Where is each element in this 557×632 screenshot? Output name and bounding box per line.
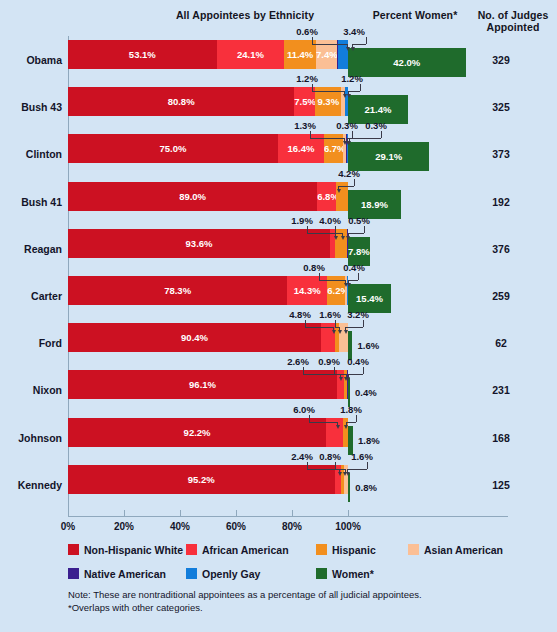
legend-label: Non-Hispanic White	[84, 544, 183, 556]
callout-label: 0.6%	[293, 26, 321, 37]
bar-segment-white: 53.1%	[68, 40, 217, 69]
callout-label: 3.2%	[344, 309, 372, 320]
chart-row: Clinton37375.0%16.4%6.7%29.1%1.3%0.3%0.3…	[0, 134, 557, 181]
callout-leader-stem	[358, 273, 359, 280]
judges-count: 373	[470, 148, 532, 160]
row-label-ford: Ford	[0, 337, 62, 349]
legend-row: Non-Hispanic WhiteAfrican AmericanHispan…	[68, 540, 538, 556]
row-label-kennedy: Kennedy	[0, 479, 62, 491]
legend-label: Hispanic	[332, 544, 376, 556]
segment-value-label: 75.0%	[160, 143, 187, 154]
callout-leader-stem	[363, 320, 364, 327]
callout-leader-line	[348, 91, 360, 92]
bar-segment-white: 90.4%	[68, 323, 321, 352]
row-label-reagan: Reagan	[0, 243, 62, 255]
callout-leader-stem	[305, 320, 306, 327]
legend-swatch-icon	[68, 544, 79, 555]
callout-leader-line	[319, 280, 345, 281]
callout-leader-line	[310, 138, 344, 139]
judges-count: 259	[470, 290, 532, 302]
chart-canvas: All Appointees by Ethnicity Percent Wome…	[0, 0, 557, 632]
segment-value-label: 7.5%	[294, 96, 315, 107]
header-no-of-judges-appointed: No. of Judges Appointed	[470, 10, 556, 33]
callout-arrow-icon	[339, 377, 343, 383]
callout-label: 1.6%	[348, 451, 376, 462]
chart-row: Carter25978.3%14.3%6.2%15.4%0.8%0.4%	[0, 276, 557, 323]
x-axis-line	[68, 516, 508, 517]
bar-segment-white: 89.0%	[68, 182, 317, 211]
note-line-2: *Overlaps with other categories.	[68, 601, 518, 614]
bar-segment-white: 95.2%	[68, 465, 335, 494]
callout-leader-line	[348, 374, 364, 375]
callout-leader-stem	[364, 226, 365, 233]
callout-label: 4.8%	[286, 309, 314, 320]
chart-row: Reagan37693.6%7.8%1.9%4.0%0.5%	[0, 229, 557, 276]
legend-swatch-icon	[316, 568, 327, 579]
bar-segment-white: 93.6%	[68, 229, 330, 258]
judges-count: 376	[470, 243, 532, 255]
women-value-label: 0.8%	[355, 473, 377, 502]
callout-leader-line	[335, 233, 342, 234]
callout-label: 0.5%	[345, 215, 373, 226]
segment-value-label: 9.3%	[317, 96, 339, 107]
segment-value-label: 95.2%	[188, 474, 215, 485]
legend-item-asian-american[interactable]: Asian American	[408, 540, 503, 556]
callout-leader-line	[312, 91, 344, 92]
chart-row: Ford6290.4%1.6%4.8%1.6%3.2%	[0, 323, 557, 370]
callout-label: 2.4%	[288, 451, 316, 462]
legend-label: Openly Gay	[202, 568, 260, 580]
legend-item-african-american[interactable]: African American	[186, 540, 289, 556]
legend-item-women[interactable]: Women*	[316, 564, 374, 580]
judges-count: 192	[470, 196, 532, 208]
segment-value-label: 89.0%	[179, 191, 206, 202]
segment-value-label: 11.4%	[287, 49, 313, 60]
legend-item-openly-gay[interactable]: Openly Gay	[186, 564, 260, 580]
x-tick-label: 0%	[48, 521, 88, 532]
callout-leader-stem	[319, 273, 320, 280]
callout-label: 0.3%	[362, 120, 390, 131]
segment-value-label: 6.2%	[327, 285, 344, 296]
legend-item-hispanic[interactable]: Hispanic	[316, 540, 376, 556]
bar-segment-white: 80.8%	[68, 87, 294, 116]
chart-row: Kennedy12595.2%0.8%2.4%0.8%1.6%	[0, 465, 557, 512]
callout-arrow-icon	[346, 472, 350, 478]
note-line-1: Note: These are nontraditional appointee…	[68, 588, 518, 601]
callout-label: 1.3%	[291, 120, 319, 131]
header-all-appointees-by-ethnicity: All Appointees by Ethnicity	[120, 10, 370, 22]
callout-leader-line	[309, 422, 337, 423]
legend-label: Asian American	[424, 544, 503, 556]
segment-value-label: 6.8%	[317, 191, 336, 202]
callout-arrow-icon	[334, 236, 338, 242]
judges-count: 231	[470, 384, 532, 396]
segment-value-label: 92.2%	[184, 427, 211, 438]
callout-label: 4.2%	[335, 168, 363, 179]
row-label-obama: Obama	[0, 54, 62, 66]
callout-arrow-icon	[344, 425, 348, 431]
x-tick-label: 80%	[272, 521, 312, 532]
legend-swatch-icon	[408, 544, 419, 555]
callout-leader-stem	[312, 37, 313, 44]
legend-label: Women*	[332, 568, 374, 580]
callout-leader-line	[334, 374, 346, 375]
row-label-nixon: Nixon	[0, 384, 62, 396]
callout-leader-stem	[303, 367, 304, 374]
bar-segment-white: 96.1%	[68, 370, 337, 399]
legend-swatch-icon	[316, 544, 327, 555]
bar-segment-white: 92.2%	[68, 418, 326, 447]
callout-arrow-icon	[346, 377, 350, 383]
segment-value-label: 90.4%	[181, 332, 208, 343]
x-tick-label: 40%	[160, 521, 200, 532]
row-label-johnson: Johnson	[0, 432, 62, 444]
legend-item-native-american[interactable]: Native American	[68, 564, 166, 580]
bar-segment-african: 6.8%	[317, 182, 336, 211]
judges-count: 329	[470, 54, 532, 66]
callout-leader-line	[312, 44, 347, 45]
callout-leader-line	[335, 469, 345, 470]
callout-arrow-icon	[347, 283, 351, 289]
legend-swatch-icon	[186, 568, 197, 579]
row-label-bush-41: Bush 41	[0, 196, 62, 208]
legend-item-non-hispanic-white[interactable]: Non-Hispanic White	[68, 540, 183, 556]
chart-row: Obama32953.1%24.1%11.4%7.4%42.0%0.6%3.4%	[0, 40, 557, 87]
header-percent-women: Percent Women*	[360, 10, 470, 22]
judges-count: 168	[470, 432, 532, 444]
